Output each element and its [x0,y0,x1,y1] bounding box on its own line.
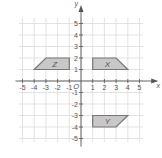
shape-y [93,116,128,128]
y-axis-arrow-icon [79,5,84,12]
y-tick-label: -2 [72,101,78,108]
x-axis-label: x [155,82,160,89]
y-tick-label: -5 [72,135,78,142]
y-axis-label: y [74,0,79,8]
x-tick-label: 5 [138,84,142,91]
y-tick-label: -3 [72,112,78,119]
shape-label-x: X [104,60,111,69]
x-tick-label: 4 [126,84,130,91]
y-tick-label: -4 [72,124,78,131]
axes-layer [15,5,158,146]
x-tick-label: 1 [91,84,95,91]
x-tick-label: 2 [102,84,106,91]
shape-label-y: Y [105,117,111,126]
y-tick-label: 1 [74,66,78,73]
x-tick-label: -2 [54,84,60,91]
x-tick-label: -4 [31,84,37,91]
y-tick-label: 5 [74,20,78,27]
x-tick-label: -3 [43,84,49,91]
y-tick-label: 2 [74,55,78,62]
origin-label: O [73,82,79,91]
coordinate-diagram: ZXY -5-4-3-2-11234554321-1-2-3-4-5Oxy [0,0,162,158]
x-tick-label: -5 [19,84,25,91]
y-tick-label: 3 [74,43,78,50]
coordinate-plane: ZXY -5-4-3-2-11234554321-1-2-3-4-5Oxy [0,0,162,158]
y-tick-label: 4 [74,32,78,39]
shape-x [93,58,128,70]
x-tick-label: 3 [114,84,118,91]
